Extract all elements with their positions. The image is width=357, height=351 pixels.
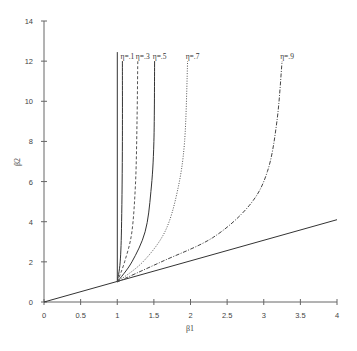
curve-label: η=.7 — [186, 52, 200, 61]
curve-line0 — [44, 220, 337, 302]
x-axis-title: β1 — [186, 324, 194, 333]
curve-1 — [117, 61, 122, 282]
y-tick-label: 14 — [25, 17, 33, 26]
curve-3 — [117, 61, 138, 282]
x-tick-label: 2.5 — [222, 311, 232, 320]
y-tick-label: 0 — [29, 298, 33, 307]
curve-label: η=.1 — [120, 52, 134, 61]
y-tick-label: 8 — [29, 137, 33, 146]
curve-9 — [117, 61, 282, 282]
curve-label: η=.9 — [280, 52, 294, 61]
y-tick-label: 6 — [29, 178, 33, 187]
x-tick-label: 0 — [42, 311, 46, 320]
x-tick-label: 4 — [335, 311, 339, 320]
y-tick-label: 10 — [25, 97, 33, 106]
curve-labels: η=.1η=.3η=.5η=.7η=.9 — [120, 52, 294, 61]
curve-label: η=.5 — [153, 52, 167, 61]
curve-label: η=.3 — [136, 52, 150, 61]
x-tick-label: 2 — [188, 311, 192, 320]
chart: 00.511.522.533.5402468101214 η=.1η=.3η=.… — [0, 0, 357, 351]
y-tick-label: 12 — [25, 57, 33, 66]
axes — [41, 21, 337, 305]
y-axis-title: β2 — [13, 158, 22, 166]
y-tick-label: 2 — [29, 258, 33, 267]
x-tick-label: 1.5 — [149, 311, 159, 320]
x-tick-label: 0.5 — [75, 311, 85, 320]
x-tick-label: 1 — [115, 311, 119, 320]
x-tick-label: 3 — [262, 311, 266, 320]
y-tick-label: 4 — [29, 218, 33, 227]
x-tick-label: 3.5 — [295, 311, 305, 320]
curves — [44, 52, 337, 302]
